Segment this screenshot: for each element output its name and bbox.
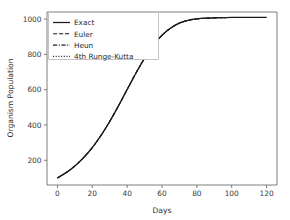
- y-axis-label: Organism Population: [6, 58, 15, 137]
- legend-label-4th-runge-kutta: 4th Runge-Kutta: [74, 52, 133, 61]
- logistic-growth-line-chart: 2004006008001000 020406080100120 Days Or…: [0, 0, 290, 220]
- x-tick-label: 120: [259, 189, 273, 198]
- x-tick-label: 20: [88, 189, 98, 198]
- y-tick-label: 800: [27, 50, 41, 59]
- x-tick-label: 80: [192, 189, 202, 198]
- x-tick-label: 60: [157, 189, 167, 198]
- chart-figure: 2004006008001000 020406080100120 Days Or…: [0, 0, 290, 220]
- y-tick-label: 1000: [23, 15, 42, 24]
- x-axis-label: Days: [153, 206, 172, 215]
- x-tick-label: 0: [55, 189, 60, 198]
- x-tick-label: 100: [225, 189, 239, 198]
- y-tick-label: 400: [27, 121, 41, 130]
- y-tick-label: 600: [27, 85, 41, 94]
- legend-label-exact: Exact: [74, 18, 94, 27]
- legend-label-heun: Heun: [74, 41, 93, 50]
- chart-legend[interactable]: ExactEulerHeun4th Runge-Kutta: [49, 13, 159, 62]
- y-tick-label: 200: [27, 156, 41, 165]
- x-tick-label: 40: [122, 189, 132, 198]
- legend-label-euler: Euler: [74, 30, 93, 39]
